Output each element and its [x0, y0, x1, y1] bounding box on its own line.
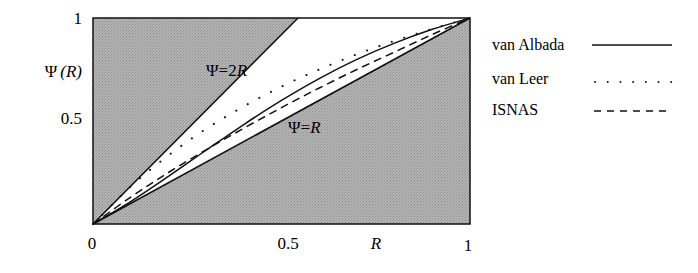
xtick-1: 1: [464, 236, 473, 255]
legend: van Albada van Leer ISNAS: [492, 36, 672, 118]
ytick-1: 1: [74, 9, 83, 28]
legend-label-van-albada: van Albada: [492, 36, 564, 53]
ytick-0-5: 0.5: [61, 109, 82, 128]
xtick-0-5: 0.5: [277, 234, 298, 253]
y-axis-label: Ψ(R): [45, 62, 83, 81]
x-axis-label: R: [370, 234, 382, 253]
xtick-0: 0: [88, 234, 97, 253]
legend-label-isnas: ISNAS: [492, 101, 538, 118]
annotation-psi-2r: Ψ=2R: [206, 61, 248, 80]
limiter-chart: 1 0.5 Ψ(R) 0 0.5 R 1 Ψ=2R Ψ=R van Albada…: [0, 0, 698, 273]
legend-label-van-leer: van Leer: [492, 70, 549, 87]
annotation-psi-r: Ψ=R: [288, 118, 321, 137]
